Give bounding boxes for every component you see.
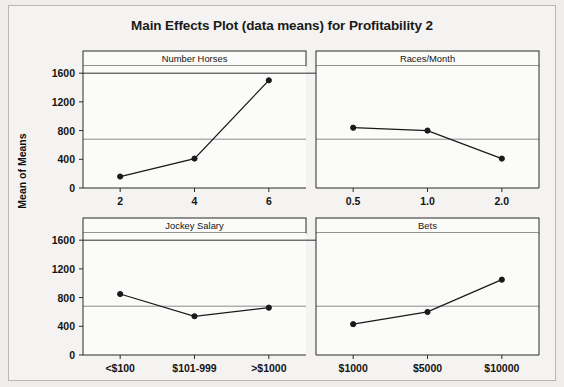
panel-title-3: Jockey Salary [165, 220, 224, 231]
panel-title-2: Races/Month [400, 53, 455, 64]
panel-title-1: Number Horses [162, 53, 228, 64]
data-point-2-1 [351, 125, 356, 130]
x-tick-label-3-1: <$100 [105, 362, 135, 374]
data-point-4-2 [425, 309, 430, 314]
y-tick-label-2-5: 1600 [52, 234, 76, 246]
y-tick-label-2-2: 400 [57, 320, 75, 332]
y-tick-label-1-2: 400 [57, 153, 75, 165]
panel-body-2 [316, 66, 539, 188]
y-tick-label-1-1: 0 [69, 182, 75, 194]
data-point-2-2 [425, 128, 430, 133]
data-point-3-3 [266, 305, 271, 310]
x-tick-label-4-2: $5000 [413, 362, 442, 374]
y-tick-label-1-4: 1200 [52, 96, 76, 108]
x-tick-label-1-2: 4 [192, 195, 198, 207]
x-tick-label-1-1: 2 [117, 195, 123, 207]
data-point-1-2 [192, 156, 197, 161]
x-tick-label-1-3: 6 [266, 195, 272, 207]
data-point-3-1 [118, 291, 123, 296]
y-tick-label-2-3: 800 [57, 292, 75, 304]
x-tick-label-2-2: 1.0 [420, 195, 435, 207]
panel-title-4: Bets [418, 220, 437, 231]
panel-body-1 [83, 66, 306, 188]
data-point-2-3 [499, 156, 504, 161]
x-tick-label-2-1: 0.5 [346, 195, 361, 207]
x-tick-label-4-1: $1000 [339, 362, 368, 374]
x-tick-label-2-3: 2.0 [495, 195, 510, 207]
main-effects-plot-figure: Main Effects Plot (data means) for Profi… [0, 0, 564, 387]
data-point-1-1 [118, 174, 123, 179]
x-tick-label-3-3: >$1000 [251, 362, 286, 374]
y-tick-label-1-5: 1600 [52, 67, 76, 79]
y-tick-label-1-3: 800 [57, 125, 75, 137]
panel-body-4 [316, 233, 539, 355]
data-point-4-1 [351, 322, 356, 327]
y-tick-label-2-4: 1200 [52, 263, 76, 275]
y-tick-label-2-1: 0 [69, 349, 75, 361]
plot-canvas: Number Horses246040080012001600Races/Mon… [0, 0, 564, 387]
data-point-3-2 [192, 314, 197, 319]
x-tick-label-3-2: $101-999 [172, 362, 217, 374]
x-tick-label-4-3: $10000 [484, 362, 519, 374]
data-point-4-3 [499, 277, 504, 282]
data-point-1-3 [266, 78, 271, 83]
panel-body-3 [83, 233, 306, 355]
